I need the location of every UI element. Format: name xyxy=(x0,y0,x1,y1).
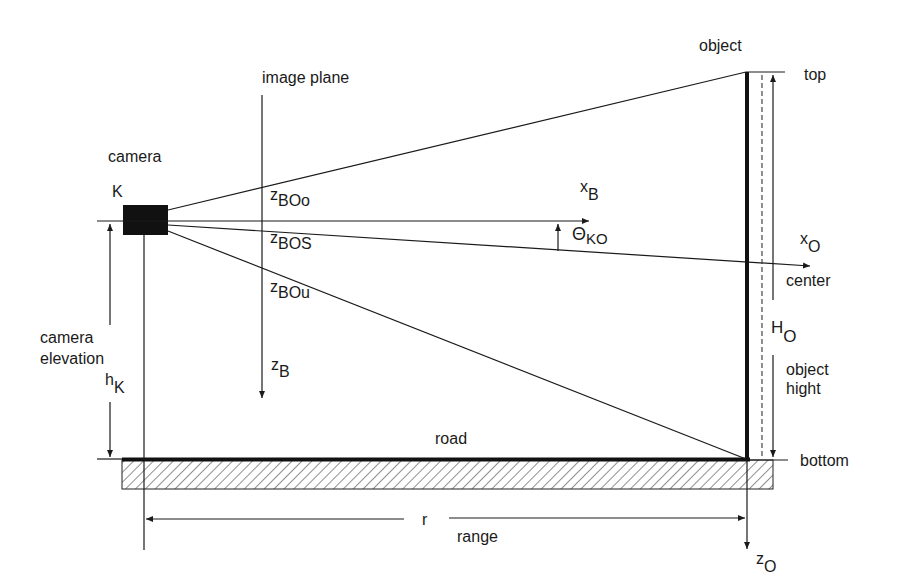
z-bou-symbol: zBOu xyxy=(270,278,310,301)
camera-symbol-k: K xyxy=(112,183,123,200)
object-label: object xyxy=(699,37,742,54)
ray-to-top xyxy=(168,72,746,210)
bottom-label: bottom xyxy=(800,452,849,469)
top-label: top xyxy=(804,66,826,83)
camera-label: camera xyxy=(108,148,161,165)
object-height-label-line2: hight xyxy=(786,380,821,397)
camera-box xyxy=(123,205,168,235)
z-bo-o-symbol: zBOo xyxy=(270,186,310,209)
x-b-symbol: xB xyxy=(580,178,599,203)
object-height-label-line1: object xyxy=(786,361,829,378)
z-b-symbol: zB xyxy=(271,356,290,380)
road-label: road xyxy=(435,430,467,447)
theta-ko-symbol: ΘKO xyxy=(572,224,608,247)
diagram-canvas: image plane camera K object top center b… xyxy=(0,0,899,576)
camera xyxy=(123,205,168,235)
z-o-symbol: zO xyxy=(756,550,776,575)
h-k-symbol: hK xyxy=(105,371,125,396)
ray-to-bottom xyxy=(168,231,746,459)
x-o-symbol: xO xyxy=(800,230,820,255)
road xyxy=(97,459,773,489)
image-plane-label: image plane xyxy=(262,69,349,86)
camera-geometry-diagram: image plane camera K object top center b… xyxy=(0,0,899,576)
range-symbol: r xyxy=(422,511,428,528)
camera-elevation-label-line1: camera xyxy=(40,329,93,346)
ray-to-center-x-o-axis xyxy=(168,225,810,266)
range-label: range xyxy=(457,528,498,545)
camera-elevation-label-line2: elevation xyxy=(40,350,104,367)
object xyxy=(746,72,788,460)
center-label: center xyxy=(786,272,831,289)
h-o-symbol: HO xyxy=(771,318,797,346)
road-hatch xyxy=(122,460,773,489)
